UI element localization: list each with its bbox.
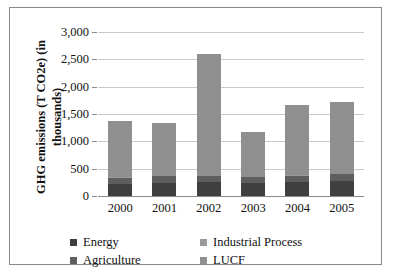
y-axis-tick-label: 2,000: [61, 79, 89, 94]
legend-label: LUCF: [213, 253, 245, 268]
bar-segment[interactable]: [108, 121, 132, 178]
x-axis-tick-label: 2005: [329, 201, 354, 216]
y-axis-title: GHG emissions (T CO2e) (in thousands): [18, 22, 58, 212]
y-axis-tick-label: 3,000: [61, 25, 89, 40]
bar-column[interactable]: 2005: [330, 32, 354, 196]
y-axis-tick: [92, 169, 97, 170]
bar-segment[interactable]: [285, 182, 309, 196]
bar-column[interactable]: 2003: [241, 32, 265, 196]
bar-segment[interactable]: [241, 132, 265, 177]
chart-legend: EnergyIndustrial ProcessAgricultureLUCF: [70, 233, 360, 269]
y-axis-tick-label: 0: [83, 189, 89, 204]
chart-frame: GHG emissions (T CO2e) (in thousands) 05…: [9, 7, 382, 265]
x-axis-tick-label: 2000: [108, 201, 133, 216]
y-axis-tick-label: 1,500: [61, 107, 89, 122]
bar-segment[interactable]: [330, 102, 354, 174]
bar-group: 200020012002200320042005: [98, 32, 364, 196]
y-axis-title-line-1: GHG emissions (T CO2e) (in: [33, 22, 49, 212]
bar-column[interactable]: 2001: [152, 32, 176, 196]
x-axis-tick-label: 2004: [285, 201, 310, 216]
legend-item[interactable]: Agriculture: [70, 251, 200, 269]
legend-label: Agriculture: [83, 253, 141, 268]
bar-segment[interactable]: [152, 183, 176, 196]
bar-segment[interactable]: [197, 54, 221, 175]
y-axis-tick: [92, 196, 97, 197]
bar-column[interactable]: 2002: [197, 32, 221, 196]
bar-segment[interactable]: [197, 182, 221, 196]
x-axis-tick-label: 2003: [241, 201, 266, 216]
y-axis-tick-label: 500: [70, 161, 89, 176]
legend-label: Energy: [83, 235, 119, 250]
x-axis-tick-label: 2001: [152, 201, 177, 216]
y-axis-tick: [92, 87, 97, 88]
plot-area: 05001,0001,5002,0002,5003,000 2000200120…: [98, 32, 364, 196]
legend-swatch-icon: [70, 257, 77, 264]
legend-swatch-icon: [70, 239, 77, 246]
bar-segment[interactable]: [285, 105, 309, 175]
bar-segment[interactable]: [241, 183, 265, 196]
bar-segment[interactable]: [152, 123, 176, 176]
legend-item[interactable]: Energy: [70, 233, 200, 251]
bar-segment[interactable]: [330, 181, 354, 196]
y-axis-tick-label: 2,500: [61, 52, 89, 67]
y-axis-tick: [92, 32, 97, 33]
legend-swatch-icon: [200, 239, 207, 246]
x-axis-tick-label: 2002: [196, 201, 221, 216]
x-axis-line: [98, 196, 364, 197]
y-axis-tick: [92, 114, 97, 115]
y-axis-tick-label: 1,000: [61, 134, 89, 149]
bar-segment[interactable]: [108, 184, 132, 196]
legend-item[interactable]: LUCF: [200, 251, 360, 269]
legend-label: Industrial Process: [213, 235, 302, 250]
bar-column[interactable]: 2000: [108, 32, 132, 196]
y-axis-tick: [92, 59, 97, 60]
legend-item[interactable]: Industrial Process: [200, 233, 360, 251]
legend-swatch-icon: [200, 257, 207, 264]
y-axis-tick: [92, 141, 97, 142]
bar-column[interactable]: 2004: [285, 32, 309, 196]
